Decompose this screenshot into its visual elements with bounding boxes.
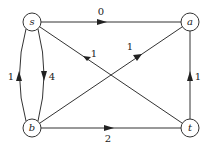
edge-label: 1 <box>91 48 97 59</box>
edge-s-a: 0 <box>41 6 181 25</box>
edge-t-a: 1 <box>187 31 201 119</box>
graph-diagram: 0 1 1 4 1 2 1 s a <box>0 0 211 151</box>
node-s: s <box>23 13 41 31</box>
node-label: a <box>187 16 193 27</box>
node-t: t <box>181 119 199 137</box>
edge-label: 4 <box>49 71 55 82</box>
node-label: s <box>29 16 34 27</box>
node-b: b <box>23 119 41 137</box>
edge-b-t: 2 <box>41 125 181 144</box>
edge-b-s: 1 <box>8 29 26 121</box>
node-label: b <box>29 122 35 133</box>
edge-label: 0 <box>98 6 104 17</box>
graph-svg: 0 1 1 4 1 2 1 s a <box>0 0 211 151</box>
edge-label: 2 <box>105 133 111 144</box>
node-a: a <box>181 13 199 31</box>
edge-label: 1 <box>8 71 14 82</box>
edge-label: 1 <box>195 71 201 82</box>
edge-label: 1 <box>127 41 133 52</box>
edge-s-b: 4 <box>38 29 55 121</box>
